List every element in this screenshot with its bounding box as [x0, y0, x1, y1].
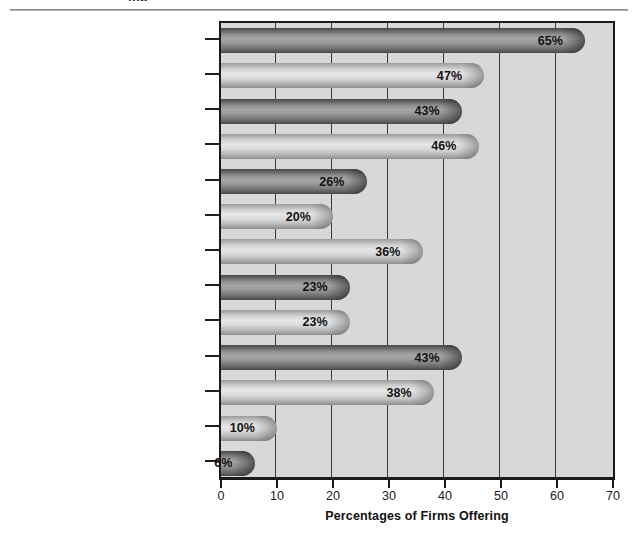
- category-tick: [205, 249, 219, 251]
- category-tick: [205, 73, 219, 75]
- x-tick-60: [556, 479, 558, 488]
- x-tick-20: [332, 479, 334, 488]
- category-tick: [205, 319, 219, 321]
- bar: 47%: [221, 63, 484, 88]
- x-tick-30: [388, 479, 390, 488]
- x-tick-50: [500, 479, 502, 488]
- bar: 6%: [221, 451, 255, 476]
- x-tick-70: [612, 479, 614, 488]
- x-tick-label-40: 40: [438, 489, 452, 503]
- x-tick-40: [444, 479, 446, 488]
- bar: 10%: [221, 416, 277, 441]
- category-tick: [205, 284, 219, 286]
- bar-cap-shading: [233, 451, 255, 476]
- bar-cap-shading: [328, 275, 350, 300]
- bar: 36%: [221, 239, 423, 264]
- category-tick: [205, 390, 219, 392]
- bar-row: 10%: [221, 411, 613, 446]
- chart-plot-area: 65%47%43%46%26%20%36%23%23%43%38%10%6%: [219, 21, 615, 479]
- bar: 38%: [221, 380, 434, 405]
- bar-value-label: 43%: [414, 351, 439, 365]
- bar-row: 23%: [221, 270, 613, 305]
- bar-value-label: 36%: [375, 245, 400, 259]
- bar-cap-shading: [401, 239, 423, 264]
- bar: 20%: [221, 204, 333, 229]
- bar: 23%: [221, 275, 350, 300]
- bar-value-label: 20%: [286, 210, 311, 224]
- category-tick: [205, 38, 219, 40]
- bar-value-label: 46%: [431, 139, 456, 153]
- bar-cap-shading: [412, 380, 434, 405]
- bar-row: 36%: [221, 234, 613, 269]
- bar-row: 65%: [221, 23, 613, 58]
- category-tick: [205, 108, 219, 110]
- bar-cap-shading: [440, 345, 462, 370]
- x-axis-title: Percentages of Firms Offering: [219, 509, 615, 523]
- bar-row: 23%: [221, 305, 613, 340]
- bar-value-label: 38%: [386, 386, 411, 400]
- bar: 46%: [221, 134, 479, 159]
- bar-cap-shading: [457, 134, 479, 159]
- bar-value-label: 26%: [319, 175, 344, 189]
- bar-value-label: 43%: [414, 104, 439, 118]
- bar-row: 47%: [221, 58, 613, 93]
- bar-row: 43%: [221, 340, 613, 375]
- x-tick-label-20: 20: [326, 489, 340, 503]
- bar-row: 43%: [221, 93, 613, 128]
- bar-cap-shading: [440, 99, 462, 124]
- bar: 26%: [221, 169, 367, 194]
- x-tick-label-10: 10: [270, 489, 284, 503]
- bar-row: 46%: [221, 129, 613, 164]
- x-tick-label-60: 60: [550, 489, 564, 503]
- bar-row: 38%: [221, 375, 613, 410]
- bar-value-label: 10%: [230, 421, 255, 435]
- bar-row: 26%: [221, 164, 613, 199]
- bar: 43%: [221, 99, 462, 124]
- bar-cap-shading: [462, 63, 484, 88]
- bar-value-label: 23%: [302, 280, 327, 294]
- bar-cap-shading: [563, 28, 585, 53]
- x-tick-label-70: 70: [606, 489, 620, 503]
- horizontal-rule: [10, 9, 628, 11]
- chart-page: mp 65%47%43%46%26%20%36%23%23%43%38%10%6…: [0, 0, 637, 536]
- category-tick: [205, 355, 219, 357]
- x-tick-label-50: 50: [494, 489, 508, 503]
- category-tick: [205, 425, 219, 427]
- category-tick: [205, 214, 219, 216]
- bar-cap-shading: [328, 310, 350, 335]
- category-tick: [205, 179, 219, 181]
- bar: 43%: [221, 345, 462, 370]
- bar-value-label: 47%: [437, 69, 462, 83]
- clipped-heading: mp: [128, 0, 148, 1]
- bar-cap-shading: [345, 169, 367, 194]
- category-tick: [205, 143, 219, 145]
- bar-value-label: 6%: [214, 456, 232, 470]
- x-tick-0: [220, 479, 222, 488]
- bar-cap-shading: [255, 416, 277, 441]
- x-tick-10: [276, 479, 278, 488]
- bar-row: 6%: [221, 446, 613, 481]
- x-tick-label-30: 30: [382, 489, 396, 503]
- bar-value-label: 65%: [538, 34, 563, 48]
- bar-row: 20%: [221, 199, 613, 234]
- bar-cap-shading: [311, 204, 333, 229]
- bar: 23%: [221, 310, 350, 335]
- bar: 65%: [221, 28, 585, 53]
- bar-value-label: 23%: [302, 315, 327, 329]
- x-tick-label-0: 0: [218, 489, 225, 503]
